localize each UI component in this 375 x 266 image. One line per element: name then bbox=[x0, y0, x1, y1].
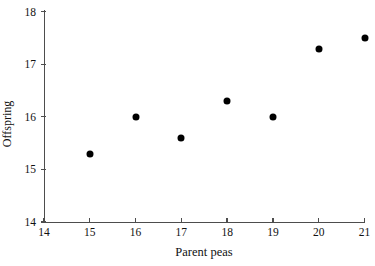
y-axis-tick-label: 15 bbox=[10, 163, 36, 175]
data-point bbox=[269, 113, 276, 120]
data-point bbox=[86, 150, 93, 157]
x-axis-tick-label: 15 bbox=[84, 226, 96, 238]
x-axis-tick bbox=[272, 218, 273, 223]
data-point bbox=[132, 113, 139, 120]
x-axis-tick bbox=[135, 218, 136, 223]
data-point bbox=[361, 34, 368, 41]
data-point bbox=[224, 98, 231, 105]
x-axis-tick bbox=[364, 218, 365, 223]
y-axis-title-wrapper: Offspring bbox=[0, 117, 14, 131]
x-axis-tick bbox=[89, 218, 90, 223]
x-axis-tick bbox=[226, 218, 227, 223]
data-point bbox=[315, 45, 322, 52]
x-axis-title: Parent peas bbox=[175, 245, 232, 260]
y-axis-tick bbox=[41, 64, 46, 65]
y-axis-tick bbox=[41, 116, 46, 117]
x-axis-tick-label: 14 bbox=[38, 226, 50, 238]
y-axis-tick-label: 18 bbox=[10, 6, 36, 18]
x-axis-tick-label: 19 bbox=[267, 226, 279, 238]
x-axis-tick bbox=[181, 218, 182, 223]
x-axis-tick bbox=[318, 218, 319, 223]
x-axis-tick-label: 16 bbox=[130, 226, 142, 238]
x-axis-line bbox=[44, 222, 365, 223]
x-axis-tick-label: 18 bbox=[221, 226, 233, 238]
y-axis-tick bbox=[41, 169, 46, 170]
y-axis-tick bbox=[41, 11, 46, 12]
scatter-plot-figure: 1415161718192021 1415161718 Offspring Pa… bbox=[0, 0, 375, 266]
x-axis-tick-label: 20 bbox=[313, 226, 325, 238]
y-axis-title: Offspring bbox=[0, 101, 15, 147]
x-axis-tick-label: 21 bbox=[359, 226, 371, 238]
y-axis-tick-label: 17 bbox=[10, 58, 36, 70]
x-axis-tick-label: 17 bbox=[176, 226, 188, 238]
y-axis-tick bbox=[41, 221, 46, 222]
data-point bbox=[178, 134, 185, 141]
y-axis-tick-label: 14 bbox=[10, 216, 36, 228]
